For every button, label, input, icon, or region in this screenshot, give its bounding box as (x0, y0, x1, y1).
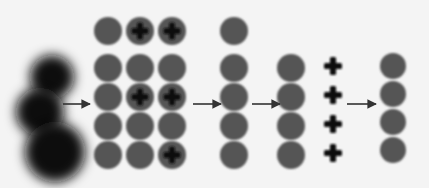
grid-circle (126, 54, 154, 82)
circle-grid (94, 17, 186, 169)
column-circle (220, 83, 248, 111)
grid-circle (94, 83, 122, 111)
final-column (380, 53, 406, 163)
column-circle (220, 54, 248, 82)
grid-circle (126, 112, 154, 140)
blurred-blobs (16, 55, 85, 182)
plus-icon (324, 57, 342, 75)
grid-circle (94, 54, 122, 82)
single-column (220, 17, 248, 169)
grid-circle (126, 141, 154, 169)
final-circle (380, 137, 406, 163)
plus-icon (324, 144, 342, 162)
blurred-blob (25, 122, 85, 182)
grid-circle (94, 141, 122, 169)
column-circle (220, 141, 248, 169)
final-circle (380, 81, 406, 107)
separated-circle (277, 141, 305, 169)
separated-column (277, 54, 342, 169)
column-circle (220, 17, 248, 45)
separated-circle (277, 54, 305, 82)
final-circle (380, 109, 406, 135)
grid-circle (158, 54, 186, 82)
grid-circle (158, 112, 186, 140)
separated-circle (277, 83, 305, 111)
plus-icon (324, 86, 342, 104)
grid-circle (94, 17, 122, 45)
column-circle (220, 112, 248, 140)
plus-icon (324, 115, 342, 133)
separated-circle (277, 112, 305, 140)
grid-circle (94, 112, 122, 140)
final-circle (380, 53, 406, 79)
process-diagram (0, 0, 429, 188)
